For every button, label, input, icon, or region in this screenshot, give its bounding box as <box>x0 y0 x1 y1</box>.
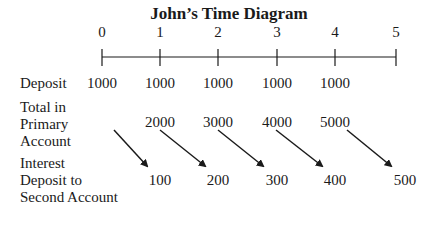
interest-arrows <box>114 130 391 166</box>
total-value: 4000 <box>262 114 292 131</box>
deposit-value: 1000 <box>262 75 292 92</box>
interest-value: 300 <box>266 172 289 189</box>
deposit-row-label: Deposit <box>20 75 67 92</box>
interest-row-label: Interest Deposit to Second Account <box>20 155 118 205</box>
total-value: 3000 <box>203 114 233 131</box>
deposit-value: 1000 <box>145 75 175 92</box>
total-row-label: Total in Primary Account <box>20 99 71 150</box>
interest-value: 400 <box>324 172 347 189</box>
timeline-axis <box>102 49 396 66</box>
interest-value: 200 <box>207 172 230 189</box>
total-value: 5000 <box>320 114 350 131</box>
interest-value: 100 <box>149 172 172 189</box>
deposit-value: 1000 <box>87 75 117 92</box>
interest-value: 500 <box>394 172 417 189</box>
deposit-value: 1000 <box>203 75 233 92</box>
deposit-value: 1000 <box>320 75 350 92</box>
total-value: 2000 <box>145 114 175 131</box>
